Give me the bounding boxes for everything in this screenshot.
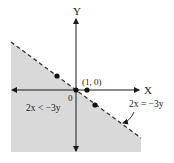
label-pointer-arrow <box>123 112 134 123</box>
point-1-0 <box>84 87 89 92</box>
x-axis-label: X <box>144 84 152 96</box>
test-point-above <box>54 73 59 78</box>
origin-point <box>73 87 78 92</box>
inequality-label: 2x < −3y <box>26 103 61 113</box>
origin-label: 0 <box>68 93 73 103</box>
test-point-below <box>92 102 97 107</box>
inequality-graph: Y X 0 (1, 0) 2x < −3y 2x = −3y <box>0 0 174 163</box>
equation-label: 2x = −3y <box>129 99 164 109</box>
point-1-0-label: (1, 0) <box>82 77 102 87</box>
y-axis-label: Y <box>73 5 81 17</box>
